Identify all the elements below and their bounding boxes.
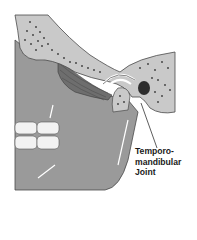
label-line-3: Joint — [135, 167, 156, 177]
lower-tooth-2 — [37, 136, 59, 149]
label-line-2: mandibular — [135, 157, 181, 167]
upper-tooth-2 — [37, 122, 59, 134]
tmj-label: Temporo- mandibular Joint — [135, 146, 181, 178]
lower-tooth-1 — [15, 136, 37, 149]
upper-tooth-1 — [15, 122, 37, 134]
label-line-1: Temporo- — [135, 146, 174, 156]
mandibular-condyle — [112, 88, 130, 112]
ear-canal — [138, 81, 150, 95]
